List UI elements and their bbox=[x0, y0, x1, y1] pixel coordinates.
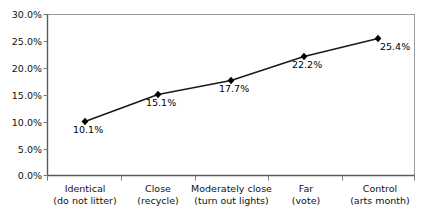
y-axis-tick-label: 0.0% bbox=[0, 170, 42, 181]
line-chart: 30.0% 25.0% 20.0% 15.0% 10.0% 5.0% 0.0% … bbox=[0, 0, 431, 215]
y-axis-tick-label: 15.0% bbox=[0, 90, 42, 101]
x-axis-category-label-control: Control (arts month) bbox=[340, 183, 420, 207]
data-point-label: 25.4% bbox=[380, 41, 410, 52]
x-axis-category-label-moderately-close: Moderately close (turn out lights) bbox=[185, 183, 278, 207]
x-axis-category-line1: Control bbox=[340, 183, 420, 195]
data-point-label: 22.2% bbox=[292, 59, 322, 70]
y-axis-tick-label: 10.0% bbox=[0, 117, 42, 128]
x-axis-category-line1: Identical bbox=[45, 183, 125, 195]
y-axis-tick-label: 25.0% bbox=[0, 36, 42, 47]
y-axis-tick-label: 30.0% bbox=[0, 9, 42, 20]
data-point-label: 10.1% bbox=[73, 124, 103, 135]
x-axis-category-line2: (vote) bbox=[278, 195, 334, 207]
x-axis-category-line1: Far bbox=[278, 183, 334, 195]
x-axis-category-line2: (turn out lights) bbox=[185, 195, 278, 207]
x-axis-category-line1: Close bbox=[123, 183, 193, 195]
x-axis-category-line2: (do not litter) bbox=[45, 195, 125, 207]
x-axis-category-label-close: Close (recycle) bbox=[123, 183, 193, 207]
x-axis-category-label-far: Far (vote) bbox=[278, 183, 334, 207]
data-point-label: 15.1% bbox=[146, 97, 176, 108]
x-axis-category-line1: Moderately close bbox=[185, 183, 278, 195]
x-axis-category-label-identical: Identical (do not litter) bbox=[45, 183, 125, 207]
y-axis-tick-label: 20.0% bbox=[0, 63, 42, 74]
x-axis-category-line2: (recycle) bbox=[123, 195, 193, 207]
x-axis-category-line2: (arts month) bbox=[340, 195, 420, 207]
data-point-label: 17.7% bbox=[219, 83, 249, 94]
y-axis-tick-label: 5.0% bbox=[0, 144, 42, 155]
